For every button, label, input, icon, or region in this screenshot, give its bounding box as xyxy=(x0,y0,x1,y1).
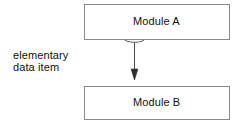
module-a-label: Module A xyxy=(133,15,180,27)
annotation-line-1: elementary xyxy=(13,49,68,61)
arrowhead-icon xyxy=(131,69,138,80)
elementary-data-item-annotation: elementary data item xyxy=(13,49,68,74)
diagram-canvas: Module A Module B elementary data item xyxy=(0,0,244,127)
annotation-line-2: data item xyxy=(13,61,68,73)
module-b-label: Module B xyxy=(133,96,180,108)
